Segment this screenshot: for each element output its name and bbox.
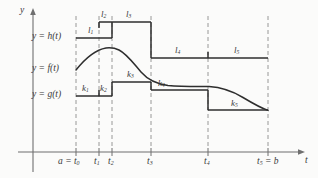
segment-label-k3: k3 [127,70,134,80]
segment-label-k4: k4 [158,79,165,89]
tick-label-t2: t2 [108,157,114,167]
tick-label-t0: a = t0 [58,157,80,167]
curve-f-of-t [76,48,268,111]
segment-label-k2-sub: 2 [104,87,107,93]
tick-label-t0-sub: 0 [77,160,80,166]
segment-label-k5-sub: 5 [235,102,238,108]
tick-label-t4-sub: 4 [207,160,210,166]
tick-label-t3-sub: 3 [150,160,153,166]
tick-label-t0-letter: a = t [58,156,77,166]
function-label-g: y = g(t) [32,90,61,100]
segment-label-l1-sub: 1 [91,29,94,35]
segment-label-l2-sub: 2 [104,13,107,19]
segment-label-l3-sub: 3 [129,13,132,19]
segment-label-l3: l3 [126,10,131,20]
function-label-f: y = f(t) [32,64,59,74]
step-function-figure: y t y = h(t) y = f(t) y = g(t) l1 l2 l3 … [0,0,318,178]
segment-label-l2: l2 [101,10,106,20]
segment-label-l5-sub: 5 [237,49,240,55]
function-label-h: y = h(t) [32,32,61,42]
segment-label-l4-sub: 4 [178,49,181,55]
segment-label-k1: k1 [82,84,89,94]
x-axis-arrowhead [298,149,305,155]
segment-label-k5: k5 [231,99,238,109]
partition-gridlines [76,16,268,148]
segment-label-l1: l1 [88,26,93,36]
y-axis-label: y [20,6,24,16]
x-axis-label: t [305,156,308,166]
segment-label-k3-sub: 3 [131,73,134,79]
tick-label-t4: t4 [204,157,210,167]
tick-label-t3: t3 [147,157,153,167]
tick-label-t5: t5 = b [257,157,279,167]
tick-label-t5-suffix: = b [263,156,279,166]
y-axis-arrowhead [30,8,36,15]
tick-label-t2-sub: 2 [111,160,114,166]
tick-label-t1-sub: 1 [97,160,100,166]
segment-label-k4-sub: 4 [162,82,165,88]
segment-label-l5: l5 [234,46,239,56]
segment-label-l4: l4 [175,46,180,56]
tick-label-t1: t1 [94,157,100,167]
segment-label-k2: k2 [100,84,107,94]
segment-label-k1-sub: 1 [86,87,89,93]
